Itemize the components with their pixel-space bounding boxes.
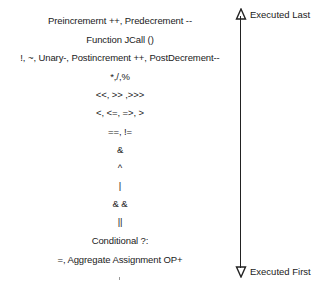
operator-row: Preincremernt ++, Predecrement --: [0, 15, 240, 27]
operator-row: ==, !=: [0, 126, 240, 138]
executed-first-label: Executed First: [250, 266, 311, 278]
operator-row: ||: [0, 216, 240, 228]
executed-last-label: Executed Last: [250, 9, 310, 21]
operator-row: |: [0, 180, 240, 192]
arrow-down-icon: [235, 266, 247, 278]
operator-row: ^: [0, 162, 240, 174]
precedence-axis-line: [240, 16, 241, 268]
operator-row: & &: [0, 198, 240, 210]
operator-row: <<, >> ,>>>: [0, 89, 240, 101]
operator-list: Preincremernt ++, Predecrement -- Functi…: [0, 0, 240, 288]
operator-row: Conditional ?:: [0, 235, 240, 247]
operator-row: =, Aggregate Assignment OP+: [0, 254, 240, 266]
operator-row: !, ~, Unary-, Postincrement ++, PostDecr…: [0, 52, 240, 64]
operator-row: *,/,%: [0, 71, 240, 83]
operator-row: <, <=, =>, >: [0, 107, 240, 119]
operator-row: Function JCall (): [0, 34, 240, 46]
trailing-mark: [119, 277, 120, 280]
operator-row: &: [0, 144, 240, 156]
